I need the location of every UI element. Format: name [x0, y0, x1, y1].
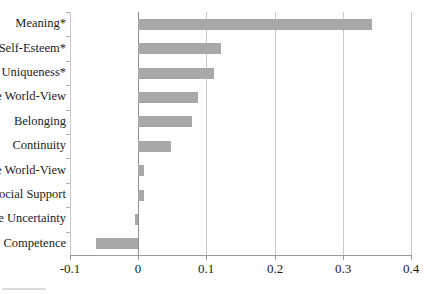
bar-3: [138, 92, 198, 103]
bar-5: [138, 141, 171, 152]
decorative-rule: [2, 288, 46, 290]
bar-6: [138, 165, 144, 176]
xtick-label-0.3: 0.3: [335, 262, 351, 276]
category-label-5: Continuity: [13, 139, 66, 151]
xtick-label-0.1: 0.1: [198, 262, 214, 276]
bar-8: [135, 214, 138, 225]
category-label-1: Self-Esteem*: [0, 42, 66, 54]
xtick-label-0.2: 0.2: [267, 262, 283, 276]
category-axis-labels: Meaning*Self-Esteem*Uniqueness*Validate …: [0, 12, 66, 256]
category-label-4: Belonging: [14, 115, 66, 127]
category-label-0: Meaning*: [15, 17, 66, 29]
category-label-9: Competence: [4, 237, 66, 249]
bar-0: [138, 19, 372, 30]
bar-2: [138, 68, 214, 79]
xtick-label-0: 0: [135, 262, 142, 276]
bar-1: [138, 43, 221, 54]
category-label-7: Social Support: [0, 188, 66, 200]
bar-9: [96, 238, 138, 249]
category-label-3: Validate World-View: [0, 90, 66, 102]
xtick-label--0.1: -0.1: [60, 262, 81, 276]
bar-7: [138, 190, 144, 201]
category-label-8: Reduce Uncertainty: [0, 212, 66, 224]
xtick-label-0.4: 0.4: [403, 262, 419, 276]
category-label-2: Uniqueness*: [1, 66, 66, 78]
category-label-6: Provide World-View: [0, 164, 66, 176]
bar-series: [70, 12, 412, 256]
horizontal-bar-chart: Meaning*Self-Esteem*Uniqueness*Validate …: [0, 0, 434, 294]
bar-4: [138, 116, 192, 127]
